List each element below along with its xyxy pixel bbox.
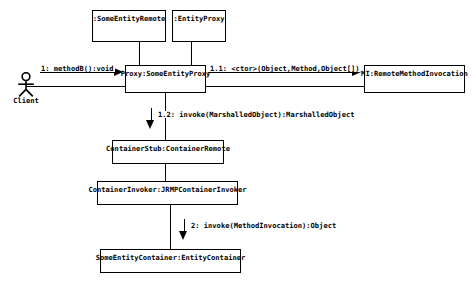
object-box-some-entity-container[interactable]: SomeEntityContainer:EntityContainer <box>100 249 241 273</box>
message-arrowhead-2 <box>179 231 187 240</box>
message-label-1-2: 1.2: invoke(MarshalledObject):Marshalled… <box>157 111 355 118</box>
link-entity-proxy-to-proxy <box>191 42 192 65</box>
link-container-stub-to-container-invoker <box>165 164 166 181</box>
actor-label: Client <box>13 97 39 104</box>
message-line-1 <box>26 86 125 87</box>
object-label-container-invoker: ContainerInvoker:JRMPContainerInvoker <box>88 182 246 193</box>
message-label-1-1: 1.1: <ctor>(Object,Method,Object[]) <box>209 65 360 72</box>
actor-client[interactable]: Client <box>13 72 39 108</box>
object-label-some-entity-container: SomeEntityContainer:EntityContainer <box>96 250 245 261</box>
message-line-2 <box>170 205 171 249</box>
message-label-1: 1: methodB():void <box>40 65 115 72</box>
object-label-some-entity-remote: :SomeEntityRemote <box>93 11 166 22</box>
link-some-entity-remote-to-proxy <box>139 42 140 65</box>
uml-collaboration-diagram: Client :SomeEntityRemote :EntityProxy Pr… <box>0 0 476 289</box>
object-box-proxy-some-entity-proxy[interactable]: Proxy:SomeEntityProxy <box>125 65 206 93</box>
message-arrowhead-1-2 <box>146 120 154 129</box>
object-label-container-stub: ContainerStub:ContainerRemote <box>106 141 230 152</box>
object-box-entity-proxy[interactable]: :EntityProxy <box>172 10 226 42</box>
object-box-container-invoker[interactable]: ContainerInvoker:JRMPContainerInvoker <box>97 181 238 205</box>
object-label-entity-proxy: :EntityProxy <box>173 11 224 22</box>
object-box-container-stub[interactable]: ContainerStub:ContainerRemote <box>112 140 224 164</box>
object-box-remote-method-invocation[interactable]: MI:RemoteMethodInvocation <box>364 65 465 93</box>
object-label-remote-method-invocation: MI:RemoteMethodInvocation <box>361 66 468 77</box>
message-label-2: 2: invoke(MethodInvocation):Object <box>190 222 337 229</box>
object-label-proxy-some-entity-proxy: Proxy:SomeEntityProxy <box>121 66 211 77</box>
message-line-1-1 <box>206 86 364 87</box>
stick-figure-actor-icon <box>13 72 39 98</box>
object-box-some-entity-remote[interactable]: :SomeEntityRemote <box>92 10 166 42</box>
